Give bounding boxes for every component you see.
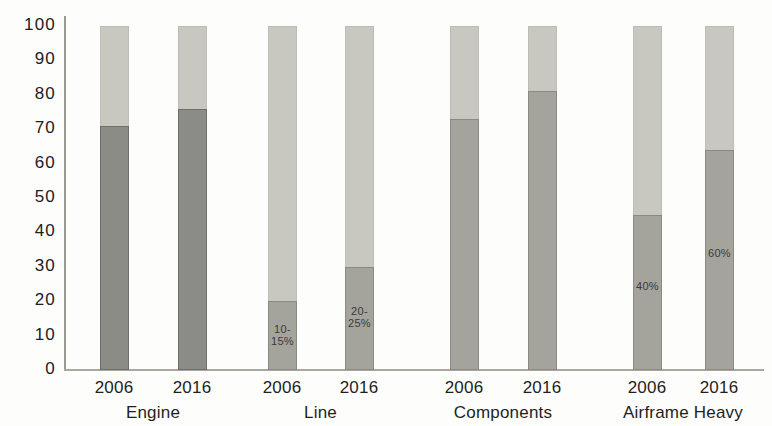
plot-area: 10- 15%20- 25%40%60% [64, 16, 764, 370]
x-axis-year-label: 2016 [329, 378, 389, 398]
bar-engine-2016[interactable] [178, 26, 207, 370]
bar-data-label: 10- 15% [269, 323, 296, 347]
y-axis-tick-70: 70 [0, 119, 56, 136]
y-axis-tick-100: 100 [0, 16, 56, 33]
bar-engine-2006[interactable] [100, 26, 129, 370]
bar-airframe-heavy-2006[interactable]: 40% [633, 26, 662, 370]
y-axis-tick-30: 30 [0, 257, 56, 274]
bar-fill: 60% [705, 150, 734, 370]
bar-fill [100, 126, 129, 370]
bar-data-label: 40% [634, 280, 661, 292]
bar-chart: 1009080706050403020100 10- 15%20- 25%40%… [0, 0, 772, 426]
y-axis-tick-80: 80 [0, 85, 56, 102]
x-axis-category-components: Components [413, 403, 593, 423]
y-axis-tick-60: 60 [0, 154, 56, 171]
bar-components-2016[interactable] [528, 26, 557, 370]
x-axis-labels: 20062016200620162006201620062016EngineLi… [0, 373, 772, 426]
x-axis-category-line: Line [231, 403, 411, 423]
y-axis-tick-90: 90 [0, 50, 56, 67]
y-axis-tick-40: 40 [0, 222, 56, 239]
x-axis-category-airframe-heavy: Airframe Heavy [593, 403, 772, 423]
x-axis-year-label: 2016 [512, 378, 572, 398]
bar-airframe-heavy-2016[interactable]: 60% [705, 26, 734, 370]
x-axis-year-label: 2006 [434, 378, 494, 398]
bar-line-2016[interactable]: 20- 25% [345, 26, 374, 370]
y-axis-tick-50: 50 [0, 188, 56, 205]
bar-line-2006[interactable]: 10- 15% [268, 26, 297, 370]
bar-components-2006[interactable] [450, 26, 479, 370]
x-axis-year-label: 2016 [162, 378, 222, 398]
bar-fill [528, 91, 557, 370]
bar-data-label: 20- 25% [346, 305, 373, 329]
bar-fill: 20- 25% [345, 267, 374, 370]
y-axis-tick-labels: 1009080706050403020100 [0, 0, 56, 426]
x-axis-year-label: 2006 [252, 378, 312, 398]
y-axis-tick-10: 10 [0, 326, 56, 343]
x-axis-year-label: 2006 [84, 378, 144, 398]
bar-fill [178, 109, 207, 370]
x-axis-category-engine: Engine [63, 403, 243, 423]
bar-fill: 40% [633, 215, 662, 370]
x-axis-year-label: 2016 [689, 378, 749, 398]
bar-data-label: 60% [706, 247, 733, 259]
bar-fill: 10- 15% [268, 301, 297, 370]
x-axis-year-label: 2006 [617, 378, 677, 398]
y-axis-tick-20: 20 [0, 291, 56, 308]
bar-fill [450, 119, 479, 370]
